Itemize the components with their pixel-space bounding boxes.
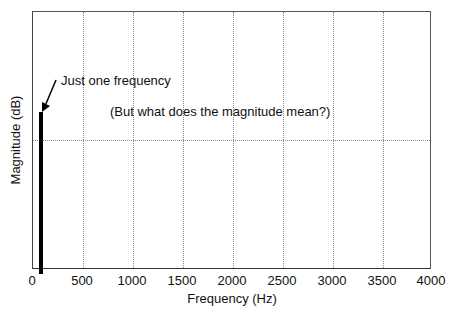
plot-area [32, 11, 431, 269]
x-tick-500: 500 [71, 273, 93, 288]
arrow-icon [40, 78, 60, 114]
x-tick-3500: 3500 [368, 273, 397, 288]
x-axis-label: Frequency (Hz) [187, 291, 277, 306]
annotation-question: (But what does the magnitude mean?) [110, 104, 330, 119]
x-tick-1500: 1500 [168, 273, 197, 288]
frequency-bar [39, 112, 43, 274]
grid-line-horizontal [33, 140, 430, 141]
x-tick-0: 0 [28, 273, 35, 288]
x-tick-2000: 2000 [218, 273, 247, 288]
x-tick-1000: 1000 [118, 273, 147, 288]
x-tick-2500: 2500 [268, 273, 297, 288]
annotation-just-one-frequency: Just one frequency [61, 73, 171, 88]
x-tick-3000: 3000 [318, 273, 347, 288]
x-tick-4000: 4000 [417, 273, 446, 288]
y-axis-label: Magnitude (dB) [8, 96, 23, 185]
